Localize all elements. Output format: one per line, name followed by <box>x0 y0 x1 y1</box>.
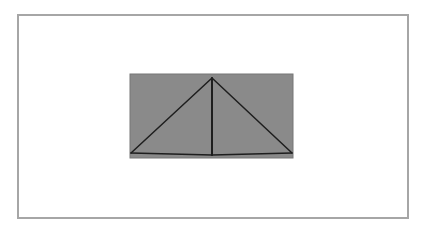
diagram-canvas <box>0 0 428 229</box>
folded-rectangle-figure <box>0 0 428 229</box>
